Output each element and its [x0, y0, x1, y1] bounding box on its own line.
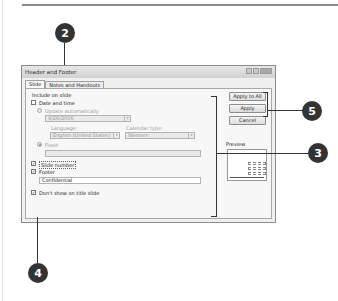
chevron-down-icon: ▾	[124, 116, 130, 121]
callout-5: 5	[302, 101, 322, 121]
slide-number-checkbox[interactable]: ✓	[31, 161, 36, 166]
preview-label: Preview	[226, 141, 245, 147]
update-automatically-label: Update automatically	[45, 108, 99, 114]
footer-label: Footer	[39, 169, 55, 175]
callout-3-line	[217, 153, 310, 154]
apply-to-all-button[interactable]: Apply to All	[229, 92, 266, 101]
dialog-tabs: Slide Notes and Handouts	[25, 80, 104, 88]
chevron-down-icon: ▾	[113, 133, 119, 138]
callout-4-line	[37, 217, 38, 263]
callout-5-bracket	[263, 92, 268, 117]
date-format-dropdown[interactable]: 9/26/2006 ▾	[45, 115, 131, 122]
slide-number-label: Slide number	[39, 161, 76, 169]
preview-placeholder	[248, 167, 266, 170]
minimize-button[interactable]	[253, 68, 259, 74]
preview-placeholder	[248, 172, 266, 175]
date-time-label: Date and time	[39, 100, 75, 106]
update-automatically-radio[interactable]	[37, 108, 42, 113]
callout-4: 4	[28, 263, 48, 283]
fixed-date-input[interactable]	[45, 150, 201, 157]
fixed-radio[interactable]	[37, 142, 42, 147]
dialog-title: Header and Footer	[25, 69, 76, 75]
preview-footer-line	[230, 177, 264, 178]
callout-3: 3	[308, 143, 328, 163]
calendar-value: Western	[128, 132, 149, 138]
tab-notes-handouts[interactable]: Notes and Handouts	[45, 81, 104, 88]
dont-show-title-checkbox[interactable]: ✓	[31, 190, 36, 195]
footer-text-input[interactable]: Confidential	[39, 177, 201, 184]
include-on-slide-label: Include on slide	[32, 92, 71, 98]
language-dropdown[interactable]: English (United States) ▾	[50, 132, 120, 139]
close-button[interactable]	[260, 68, 272, 74]
header-rule	[22, 4, 338, 6]
language-label: Language:	[51, 125, 77, 131]
callout-3-bracket	[211, 96, 217, 217]
dont-show-title-label: Don't show on title slide	[39, 190, 99, 196]
date-value: 9/26/2006	[48, 115, 74, 121]
preview-placeholder	[248, 162, 266, 165]
page-margin-rule	[2, 0, 3, 301]
help-button[interactable]	[246, 68, 252, 74]
cancel-button[interactable]: Cancel	[229, 116, 266, 125]
footer-checkbox[interactable]: ✓	[31, 169, 36, 174]
header-footer-dialog: Header and Footer Slide Notes and Handou…	[21, 65, 276, 223]
callout-2: 2	[55, 23, 75, 43]
tab-slide[interactable]: Slide	[25, 80, 45, 88]
dialog-titlebar: Header and Footer	[22, 66, 275, 78]
apply-button[interactable]: Apply	[229, 104, 266, 113]
language-value: English (United States)	[53, 132, 110, 138]
calendar-type-label: Calendar type:	[126, 125, 163, 131]
chevron-down-icon: ▾	[188, 133, 194, 138]
date-time-checkbox[interactable]	[31, 100, 36, 105]
calendar-type-dropdown[interactable]: Western ▾	[125, 132, 195, 139]
fixed-label: Fixed	[45, 142, 58, 148]
